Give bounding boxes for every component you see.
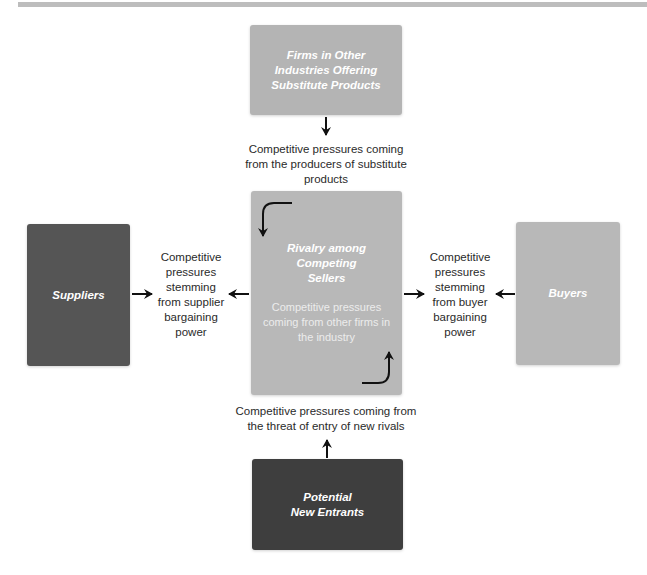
rivalry-box: Rivalry among Competing Sellers Competit… bbox=[251, 191, 402, 395]
new-entrants-pressure-label: Competitive pressures coming from the th… bbox=[216, 404, 436, 434]
substitutes-box-title: Firms in Other Industries Offering Subst… bbox=[271, 48, 380, 93]
rivalry-box-subtitle: Competitive pressures coming from other … bbox=[263, 300, 390, 345]
suppliers-pressure-label: Competitive pressures stemming from supp… bbox=[150, 250, 232, 340]
substitutes-pressure-label: Competitive pressures coming from the pr… bbox=[226, 142, 426, 187]
buyers-box-title: Buyers bbox=[549, 286, 588, 301]
suppliers-box: Suppliers bbox=[27, 224, 130, 366]
suppliers-box-title: Suppliers bbox=[52, 288, 104, 303]
buyers-box: Buyers bbox=[516, 222, 620, 365]
new-entrants-box-title: Potential New Entrants bbox=[291, 490, 365, 520]
top-divider-bar bbox=[18, 2, 647, 7]
buyers-pressure-label: Competitive pressures stemming from buye… bbox=[422, 250, 498, 340]
rivalry-box-title: Rivalry among Competing Sellers bbox=[287, 241, 366, 286]
substitutes-box: Firms in Other Industries Offering Subst… bbox=[250, 25, 402, 115]
new-entrants-box: Potential New Entrants bbox=[252, 459, 403, 550]
